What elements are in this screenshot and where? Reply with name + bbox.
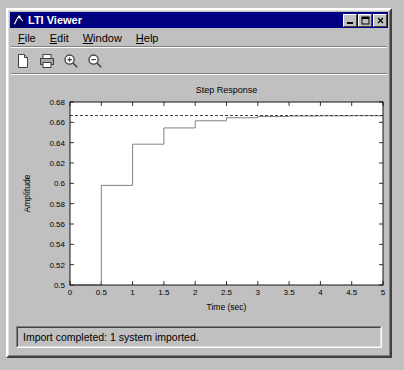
y-tick-label: 0.56 bbox=[49, 220, 65, 229]
step-response-chart[interactable]: Step Response00.511.522.533.544.550.50.5… bbox=[12, 77, 386, 327]
zoom-out-button[interactable] bbox=[84, 51, 106, 72]
x-axis-label: Time (sec) bbox=[207, 302, 247, 312]
x-tick-label: 4 bbox=[318, 288, 323, 297]
x-tick-label: 1 bbox=[130, 288, 135, 297]
menu-window[interactable]: Window bbox=[76, 32, 129, 44]
menubar: File Edit Window Help bbox=[11, 30, 387, 45]
menubar-divider bbox=[11, 46, 387, 48]
x-tick-label: 1.5 bbox=[158, 288, 170, 297]
app-window: LTI Viewer File Edit Window Help bbox=[6, 8, 392, 358]
y-tick-label: 0.62 bbox=[49, 159, 65, 168]
x-tick-label: 3.5 bbox=[284, 288, 296, 297]
x-tick-label: 2 bbox=[193, 288, 198, 297]
y-tick-label: 0.58 bbox=[49, 200, 65, 209]
maximize-button[interactable] bbox=[358, 14, 372, 27]
menu-mnemonic: F bbox=[18, 32, 25, 44]
status-bar-bevel: Import completed: 1 system imported. bbox=[17, 327, 381, 347]
y-tick-label: 0.64 bbox=[49, 139, 65, 148]
window-title: LTI Viewer bbox=[28, 14, 343, 26]
x-tick-label: 4.5 bbox=[346, 288, 358, 297]
plot-background bbox=[70, 102, 383, 285]
titlebar[interactable]: LTI Viewer bbox=[10, 12, 388, 28]
y-tick-label: 0.6 bbox=[54, 179, 66, 188]
x-tick-label: 0 bbox=[68, 288, 73, 297]
toolbar bbox=[12, 50, 106, 72]
x-tick-label: 3 bbox=[256, 288, 261, 297]
y-axis-label: Amplitude bbox=[22, 174, 32, 212]
minimize-button[interactable] bbox=[343, 14, 357, 27]
y-tick-label: 0.66 bbox=[49, 118, 65, 127]
y-tick-label: 0.54 bbox=[49, 240, 65, 249]
toolbar-divider bbox=[11, 73, 387, 75]
zoom-in-button[interactable] bbox=[60, 51, 82, 72]
matlab-membrane-icon bbox=[12, 14, 25, 27]
menu-help[interactable]: Help bbox=[129, 32, 166, 44]
print-button[interactable] bbox=[36, 51, 58, 72]
menu-mnemonic: E bbox=[50, 32, 57, 44]
chart-title: Step Response bbox=[196, 85, 258, 95]
plot-figure[interactable]: Step Response00.511.522.533.544.550.50.5… bbox=[12, 77, 386, 327]
menu-mnemonic: H bbox=[136, 32, 144, 44]
menu-mnemonic: W bbox=[83, 32, 93, 44]
menu-edit[interactable]: Edit bbox=[43, 32, 76, 44]
y-tick-label: 0.52 bbox=[49, 261, 65, 270]
titlebar-buttons bbox=[343, 14, 387, 27]
close-button[interactable] bbox=[373, 14, 387, 27]
y-tick-label: 0.5 bbox=[54, 281, 66, 290]
x-tick-label: 2.5 bbox=[221, 288, 233, 297]
x-tick-label: 0.5 bbox=[96, 288, 108, 297]
menu-file[interactable]: File bbox=[11, 32, 43, 44]
status-bar: Import completed: 1 system imported. bbox=[16, 326, 382, 348]
x-tick-label: 5 bbox=[381, 288, 386, 297]
new-document-button[interactable] bbox=[12, 51, 34, 72]
status-message: Import completed: 1 system imported. bbox=[18, 331, 199, 343]
y-tick-label: 0.68 bbox=[49, 98, 65, 107]
